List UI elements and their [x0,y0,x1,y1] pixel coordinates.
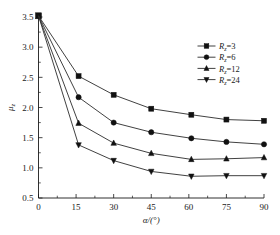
x-tick-label: 30 [109,202,119,212]
chart-legend: Rz=3Rz=6Rz=12Rz=24 [198,41,241,86]
data-point-circle [204,55,209,60]
y-axis-title: μz [5,104,16,113]
y-tick-label: 3.0 [22,42,34,52]
data-point-square [111,92,116,97]
y-tick-label: 0.5 [22,193,34,203]
data-point-triangle-up [111,140,117,145]
data-point-square [149,106,154,111]
y-tick-label: 2.5 [22,73,34,83]
chart-figure: 0153045607590 0.51.01.52.02.53.03.5 Rz=3… [0,0,280,235]
y-tick-label: 3.5 [22,12,34,22]
data-point-square [189,112,194,117]
legend-item-3[interactable]: Rz=24 [198,75,241,86]
y-tick-labels: 0.51.01.52.02.53.03.5 [22,12,34,203]
data-point-square [224,117,229,122]
data-point-triangle-up [261,154,267,159]
data-point-circle [76,95,81,100]
data-point-circle [189,136,194,141]
y-tick-label: 1.0 [22,163,34,173]
line-chart: 0153045607590 0.51.01.52.02.53.03.5 Rz=3… [0,0,280,235]
data-point-circle [224,139,229,144]
legend-item-0[interactable]: Rz=3 [198,41,236,52]
data-point-circle [149,130,154,135]
data-point-circle [261,142,266,147]
legend-label: Rz=24 [218,75,241,86]
legend-item-1[interactable]: Rz=6 [198,52,236,63]
legend-item-2[interactable]: Rz=12 [198,64,240,75]
x-tick-label: 0 [36,202,41,212]
x-tick-label: 90 [260,202,270,212]
svg-text:μz: μz [5,104,16,113]
y-tick-label: 2.0 [22,103,34,113]
x-axis-title: α/(°) [143,215,160,225]
x-tick-label: 75 [222,202,232,212]
legend-label: Rz=3 [218,41,236,52]
legend-label: Rz=6 [218,52,236,63]
data-point-square [204,44,209,49]
x-tick-label: 60 [184,202,194,212]
data-point-triangle-up [76,120,82,125]
y-tick-label: 1.5 [22,133,34,143]
data-series-layer [36,13,267,180]
x-tick-labels: 0153045607590 [36,202,269,212]
data-point-triangle-down [189,174,195,179]
x-tick-label: 45 [147,202,157,212]
data-point-circle [111,120,116,125]
legend-label: Rz=12 [218,64,240,75]
x-tick-label: 15 [72,202,82,212]
series-line [39,16,265,160]
data-point-square [76,74,81,79]
series-2 [39,16,267,162]
data-point-square [262,118,267,123]
